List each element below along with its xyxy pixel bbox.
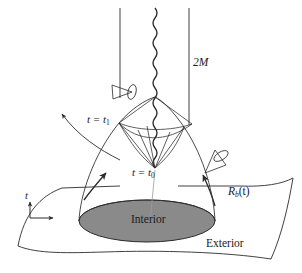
- diagram-canvas: [0, 0, 302, 273]
- slice-t0-label-text: t = t: [132, 166, 151, 178]
- slice-t1-label: t = t1: [87, 114, 110, 127]
- boundary-radius-label: Rb(t): [228, 186, 250, 199]
- axis-marker: [30, 202, 53, 218]
- interior-label: Interior: [131, 214, 165, 226]
- collapse-spacetime-diagram: 2M t = t1 t = t0 Rb(t) Interior Exterior…: [0, 0, 302, 273]
- boundary-radius-arg: (t): [239, 185, 250, 197]
- time-axis-label: t: [25, 191, 28, 202]
- light-cone-right: [205, 148, 230, 173]
- singularity-wavy-line: [153, 8, 157, 168]
- boundary-radius-symbol: R: [228, 185, 235, 197]
- infall-arrow-right: [203, 175, 215, 206]
- slice-t1-label-text: t = t: [87, 113, 106, 125]
- exterior-label: Exterior: [206, 238, 244, 250]
- light-cone-left: [112, 84, 138, 100]
- horizon-label: 2M: [193, 57, 208, 69]
- slice-t0-label: t = t0: [132, 167, 155, 180]
- slice-t1-label-sub: 1: [106, 118, 110, 127]
- slice-t0-label-sub: 0: [151, 171, 155, 180]
